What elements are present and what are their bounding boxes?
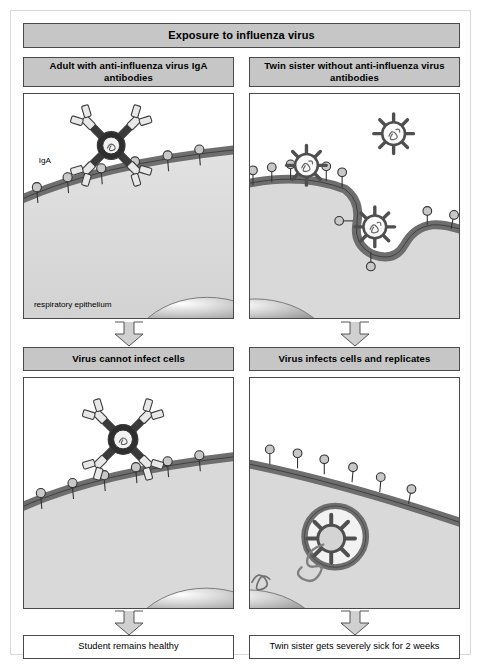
left-outcome-box: Student remains healthy [23,635,234,659]
iga-label: IgA [39,156,52,165]
right-outcome-box: Twin sister gets severely sick for 2 wee… [249,635,460,659]
figure-title-banner: Exposure to influenza virus [23,23,460,48]
scene-virus-replicating [249,377,460,609]
influenza-virus-icon [307,515,355,563]
right-column-header: Twin sister without anti-influenza virus… [249,57,460,87]
epithelial-cell-body [24,455,233,608]
down-arrow-icon-left-2 [111,609,147,637]
epithelial-cell-body [24,149,233,318]
left-column-header: Adult with anti-influenza virus IgA anti… [23,57,234,87]
epithelium-label: respiratory epithelium [34,300,112,309]
influenza-virus-icon [374,114,414,154]
scene-adult-with-iga: IgA respiratory epithelium [23,93,234,319]
scene-twin-without-antibodies [249,93,460,319]
influenza-virus-icon [355,207,395,247]
left-mid-header: Virus cannot infect cells [23,347,234,371]
down-arrow-icon-right-2 [337,609,373,637]
figure-frame: Exposure to influenza virus Adult with a… [10,10,471,655]
influenza-virus-icon [287,146,327,186]
scene-virus-neutralized [23,377,234,609]
down-arrow-icon-right-1 [337,320,373,348]
epithelial-cell-body-invaginated [250,179,459,318]
down-arrow-icon-left-1 [111,320,147,348]
right-mid-header: Virus infects cells and replicates [249,347,460,371]
